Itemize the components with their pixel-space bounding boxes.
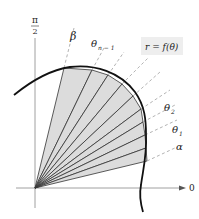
- label-alpha: α: [176, 141, 183, 152]
- axis-label-two: 2: [32, 27, 37, 36]
- axis-arrow-icon: [179, 186, 186, 191]
- label-theta-n-minus-1: θ: [91, 38, 97, 49]
- label-beta: β: [69, 30, 76, 43]
- curve-label: r = f(θ): [145, 42, 179, 52]
- label-theta-1-sub: 1: [179, 130, 183, 137]
- polar-area-diagram: π 2 0 r = f(θ) β θ n − 1 θ 2 θ 1 α: [0, 0, 199, 219]
- label-theta-2: θ: [164, 102, 170, 113]
- label-theta-n-minus-1-sub: n − 1: [98, 44, 115, 51]
- label-theta-1: θ: [172, 124, 178, 135]
- axis-label-zero: 0: [189, 183, 195, 193]
- axis-label-pi: π: [32, 15, 38, 25]
- label-theta-2-sub: 2: [170, 108, 175, 115]
